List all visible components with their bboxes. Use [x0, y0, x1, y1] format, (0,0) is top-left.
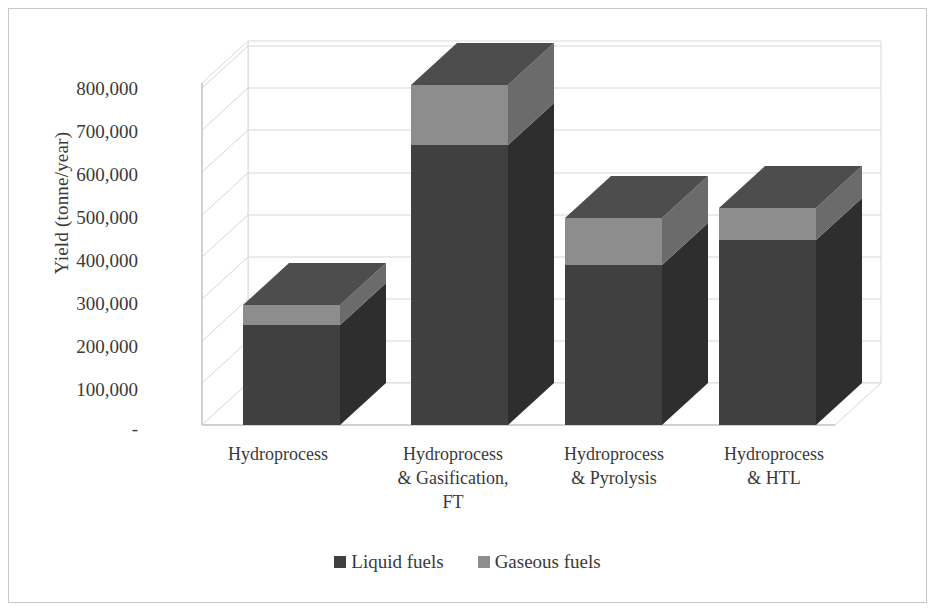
x-tick-label-hydroprocess-pyrolysis: Hydroprocess & Pyrolysis	[524, 443, 704, 491]
bar-4-liquid-front	[719, 240, 816, 425]
x-tick-label-hydroprocess-gasification-ft: Hydroprocess & Gasification, FT	[358, 443, 548, 514]
bar-1-gaseous-front	[243, 305, 340, 325]
bar-3-liquid-front	[565, 265, 662, 425]
bar-group-hydroprocess[interactable]	[243, 263, 386, 425]
bar-2-gaseous-front	[411, 85, 508, 145]
legend-label-liquid-fuels: Liquid fuels	[351, 551, 443, 573]
x-tick-line: & Pyrolysis	[524, 467, 704, 491]
x-tick-line: Hydroprocess	[524, 443, 704, 467]
x-tick-line: Hydroprocess	[358, 443, 548, 467]
bar-3-gaseous-front	[565, 218, 662, 265]
bar-group-hydroprocess-gasification-ft[interactable]	[411, 43, 554, 425]
x-tick-line: & HTL	[684, 467, 864, 491]
plot-area	[0, 0, 935, 611]
legend-label-gaseous-fuels: Gaseous fuels	[495, 551, 601, 573]
bar-2-liquid-side	[508, 103, 554, 425]
x-tick-line: FT	[358, 491, 548, 515]
bar-group-hydroprocess-pyrolysis[interactable]	[565, 176, 708, 425]
bar-group-hydroprocess-htl[interactable]	[719, 166, 862, 425]
x-tick-line: Hydroprocess	[684, 443, 864, 467]
x-tick-line: Hydroprocess	[198, 443, 358, 467]
chart-container: Yield (tonne/year) 800,000 700,000 600,0…	[0, 0, 935, 611]
x-tick-label-hydroprocess-htl: Hydroprocess & HTL	[684, 443, 864, 491]
bar-1-liquid-front	[243, 325, 340, 425]
x-tick-line: & Gasification,	[358, 467, 548, 491]
legend-item-gaseous-fuels[interactable]: Gaseous fuels	[478, 551, 601, 573]
bar-4-gaseous-front	[719, 208, 816, 240]
legend-swatch-liquid-fuels	[334, 556, 346, 568]
legend-swatch-gaseous-fuels	[478, 556, 490, 568]
bar-2-liquid-front	[411, 145, 508, 425]
chart-legend: Liquid fuels Gaseous fuels	[0, 551, 935, 573]
x-tick-label-hydroprocess: Hydroprocess	[198, 443, 358, 467]
legend-item-liquid-fuels[interactable]: Liquid fuels	[334, 551, 443, 573]
